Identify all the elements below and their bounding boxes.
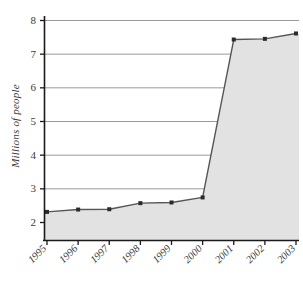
y-tick-label-3: 3: [31, 182, 37, 194]
data-point-1995: [45, 210, 49, 214]
data-point-1996: [76, 208, 80, 212]
y-tick-label-4: 4: [31, 149, 37, 161]
x-tick-label-2001: 2001: [213, 243, 236, 266]
x-tick-label-1997: 1997: [88, 242, 111, 265]
x-tick-label-1999: 1999: [150, 242, 173, 265]
x-axis-ticks: 199519961997199819992000200120022003: [26, 240, 298, 265]
x-tick-label-1996: 1996: [57, 242, 80, 265]
y-axis-ticks: 8765432: [31, 14, 46, 228]
data-point-2001: [232, 38, 236, 42]
y-tick-label-7: 7: [31, 48, 37, 60]
x-tick-label-1995: 1995: [26, 243, 49, 266]
x-tick-label-2000: 2000: [181, 242, 204, 265]
y-tick-label-5: 5: [31, 115, 37, 127]
chart-container: 8765432 19951996199719981999200020012002…: [0, 0, 303, 282]
data-point-2002: [263, 37, 267, 41]
data-point-2003: [294, 31, 298, 35]
y-tick-label-6: 6: [31, 81, 37, 93]
y-tick-label-2: 2: [31, 216, 37, 228]
data-point-1997: [107, 207, 111, 211]
y-tick-label-8: 8: [31, 14, 37, 26]
x-tick-label-1998: 1998: [119, 242, 142, 265]
line-area-chart: 8765432 19951996199719981999200020012002…: [0, 0, 303, 282]
data-point-2000: [201, 195, 205, 199]
x-tick-label-2002: 2002: [244, 242, 267, 265]
data-point-1999: [170, 200, 174, 204]
data-point-1998: [138, 201, 142, 205]
x-tick-label-2003: 2003: [275, 243, 298, 266]
